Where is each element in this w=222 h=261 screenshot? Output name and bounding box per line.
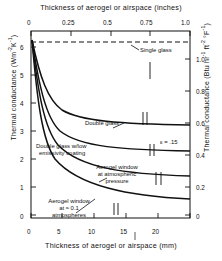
annotation-aerogel-atm-line3: pressure [88, 178, 146, 185]
marker-bars [114, 62, 161, 240]
top-axis-ticks [31, 31, 190, 36]
annotation-double-glass: Double glass [85, 120, 119, 127]
annotation-single-glass: Single glass [140, 47, 172, 54]
series-double-glass-low-e [32, 40, 190, 151]
annotation-epsilon: ε = .15 [160, 139, 178, 146]
annotation-low-e-line2: emissivity coating [39, 150, 85, 157]
annotation-aerogel-low-line3: atmospheres [38, 212, 100, 219]
thermal-conductance-chart: Thickness of aerogel or airspace (inches… [0, 0, 222, 261]
plot-canvas [0, 0, 222, 261]
right-axis-ticks [185, 59, 190, 215]
